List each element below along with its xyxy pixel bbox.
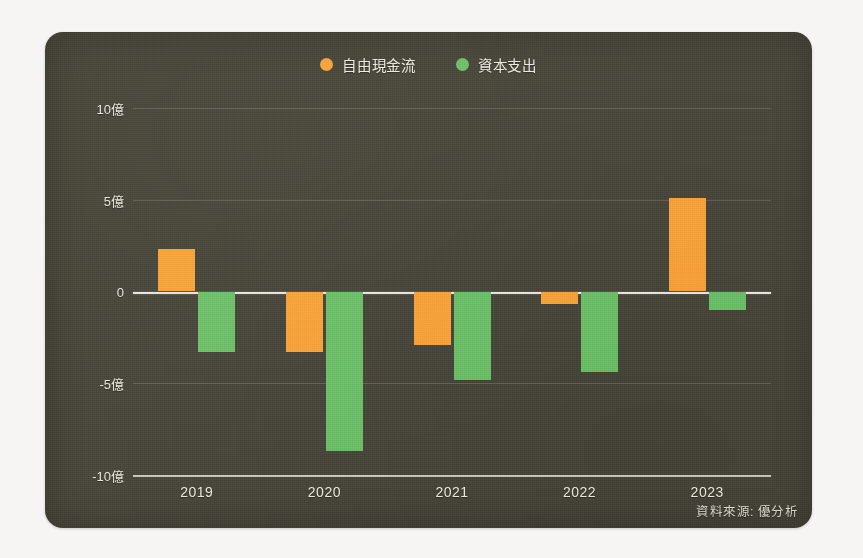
x-axis-tick-label: 2021 xyxy=(435,484,468,500)
y-axis-tick-label: 10億 xyxy=(97,99,124,118)
x-axis-tick-label: 2019 xyxy=(180,484,213,500)
bar-2023-fcf xyxy=(669,198,706,292)
bar-2019-fcf xyxy=(158,249,195,291)
plot-area: 10億5億0-5億-10億 20192020202120222023 xyxy=(133,76,771,486)
y-axis-tick-label: -5億 xyxy=(99,374,124,393)
bar-2021-capex xyxy=(454,292,491,380)
y-axis-tick-label: -10億 xyxy=(92,466,124,485)
bar-2020-fcf xyxy=(286,292,323,353)
bar-series-container xyxy=(133,76,771,486)
bar-2020-capex xyxy=(326,292,363,452)
legend-dot-orange-icon xyxy=(320,58,333,71)
bar-2022-capex xyxy=(581,292,618,373)
y-axis-tick-label: 0 xyxy=(117,284,124,299)
x-axis-tick-label: 2022 xyxy=(563,484,596,500)
bar-2019-capex xyxy=(198,292,235,353)
legend-label-capex: 資本支出 xyxy=(478,54,537,75)
legend-item-capex: 資本支出 xyxy=(456,54,537,75)
bar-2022-fcf xyxy=(541,292,578,305)
bar-2021-fcf xyxy=(414,292,451,345)
source-attribution: 資料來源: 優分析 xyxy=(696,501,798,520)
legend-item-fcf: 自由現金流 xyxy=(320,54,416,75)
bar-2023-capex xyxy=(709,292,746,310)
x-axis-tick-label: 2020 xyxy=(308,484,341,500)
chart-legend: 自由現金流 資本支出 xyxy=(45,54,812,75)
y-axis-tick-label: 5億 xyxy=(104,190,124,209)
chart-card: 自由現金流 資本支出 10億5億0-5億-10億 201920202021202… xyxy=(45,32,812,528)
x-axis-tick-label: 2023 xyxy=(691,484,724,500)
legend-dot-green-icon xyxy=(456,58,469,71)
legend-label-fcf: 自由現金流 xyxy=(342,54,416,75)
